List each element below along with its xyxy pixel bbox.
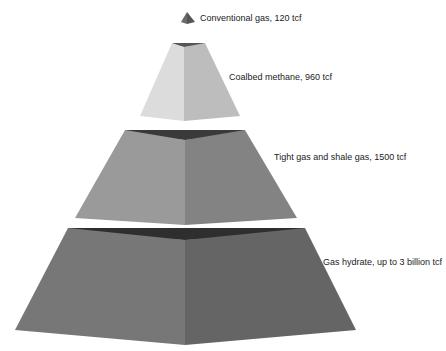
tier-coalbed-methane xyxy=(140,43,240,121)
label-gas-hydrate: Gas hydrate, up to 3 billion tcf xyxy=(323,257,442,267)
tier-4-right-face xyxy=(185,228,356,345)
tier-2-right-face xyxy=(184,43,240,121)
label-coalbed-methane: Coalbed methane, 960 tcf xyxy=(229,72,332,82)
tier-1-right-face xyxy=(187,12,195,24)
tier-tight-gas-shale-gas xyxy=(75,130,297,225)
tier-gas-hydrate xyxy=(15,228,356,345)
gas-resource-pyramid xyxy=(0,0,446,351)
tier-conventional-gas xyxy=(181,12,195,24)
tier-3-right-face xyxy=(185,130,297,225)
tier-1-left-face xyxy=(181,12,187,24)
tier-4-left-face xyxy=(15,228,185,345)
tier-3-left-face xyxy=(75,130,185,225)
label-conventional-gas: Conventional gas, 120 tcf xyxy=(200,13,302,23)
label-tight-gas-shale-gas: Tight gas and shale gas, 1500 tcf xyxy=(274,152,406,162)
tier-2-left-face xyxy=(140,43,184,121)
